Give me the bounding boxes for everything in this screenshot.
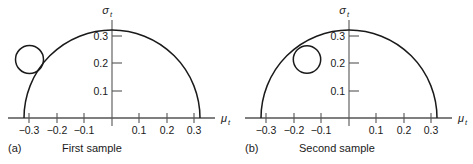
svg-text:t: t [228, 118, 231, 127]
y-tick-label: 0.2 [93, 57, 108, 69]
chart-panel-a: −0.3 −0.2 −0.1 0.1 0.2 0.3 0.1 0.2 0.3 σ… [0, 0, 236, 164]
svg-text:t: t [465, 118, 468, 127]
panel-tag-a: (a) [8, 138, 21, 158]
svg-text:σ: σ [339, 4, 346, 16]
y-tick-marks [349, 36, 359, 91]
y-axis-label: σ t [339, 4, 350, 19]
chart-panel-b: −0.3 −0.2 −0.1 0.1 0.2 0.3 0.1 0.2 0.3 σ… [237, 0, 473, 164]
y-axis-label: σ t [102, 4, 113, 19]
x-tick-label: 0.1 [132, 124, 147, 136]
x-tick-label: −0.3 [19, 124, 40, 136]
y-tick-marks [112, 36, 122, 91]
sample-circle-b [293, 46, 320, 73]
x-tick-label: −0.1 [311, 124, 332, 136]
x-axis-label: μ t [457, 112, 468, 127]
y-tick-label: 0.1 [330, 85, 345, 97]
panel-title-a: First sample [62, 138, 122, 158]
y-tick-label: 0.1 [93, 85, 108, 97]
y-tick-label: 0.3 [330, 30, 345, 42]
x-tick-label: 0.1 [369, 124, 384, 136]
panel-caption-a: (a) First sample [0, 138, 236, 158]
svg-text:μ: μ [457, 112, 464, 124]
x-tick-label: −0.2 [284, 124, 305, 136]
x-tick-label: 0.3 [187, 124, 202, 136]
sample-circle-a [16, 46, 44, 74]
svg-text:t: t [110, 10, 113, 19]
panel-title-b: Second sample [299, 138, 375, 158]
y-tick-label: 0.2 [330, 57, 345, 69]
svg-text:μ: μ [220, 112, 227, 124]
svg-text:t: t [347, 10, 350, 19]
x-axis-label: μ t [220, 112, 231, 127]
y-tick-label: 0.3 [93, 30, 108, 42]
x-tick-label: 0.2 [160, 124, 175, 136]
x-tick-label: −0.3 [256, 124, 277, 136]
panel-tag-b: (b) [245, 138, 258, 158]
x-tick-label: 0.2 [397, 124, 412, 136]
x-tick-label: −0.1 [74, 124, 95, 136]
x-tick-label: 0.3 [424, 124, 439, 136]
x-tick-label: −0.2 [47, 124, 68, 136]
figure-root: −0.3 −0.2 −0.1 0.1 0.2 0.3 0.1 0.2 0.3 σ… [0, 0, 473, 164]
svg-text:σ: σ [102, 4, 109, 16]
panel-caption-b: (b) Second sample [237, 138, 473, 158]
